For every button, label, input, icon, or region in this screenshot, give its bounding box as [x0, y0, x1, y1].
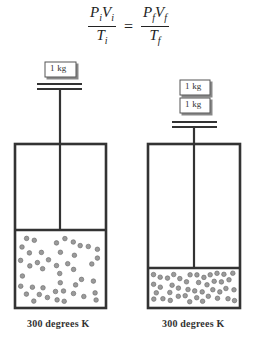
right-temperature-label: 300 degrees K — [162, 318, 224, 329]
right-cylinder — [148, 80, 240, 308]
left-temperature-label: 300 degrees K — [27, 318, 89, 329]
left-cylinder — [15, 62, 106, 308]
right-gas-particles — [151, 271, 237, 304]
piston-diagram — [0, 0, 257, 345]
right-weight-label-bottom: 1 kg — [185, 99, 202, 109]
right-weight-label-top: 1 kg — [185, 81, 202, 91]
left-weight-label: 1 kg — [50, 63, 67, 73]
left-gas-particles — [18, 236, 99, 304]
